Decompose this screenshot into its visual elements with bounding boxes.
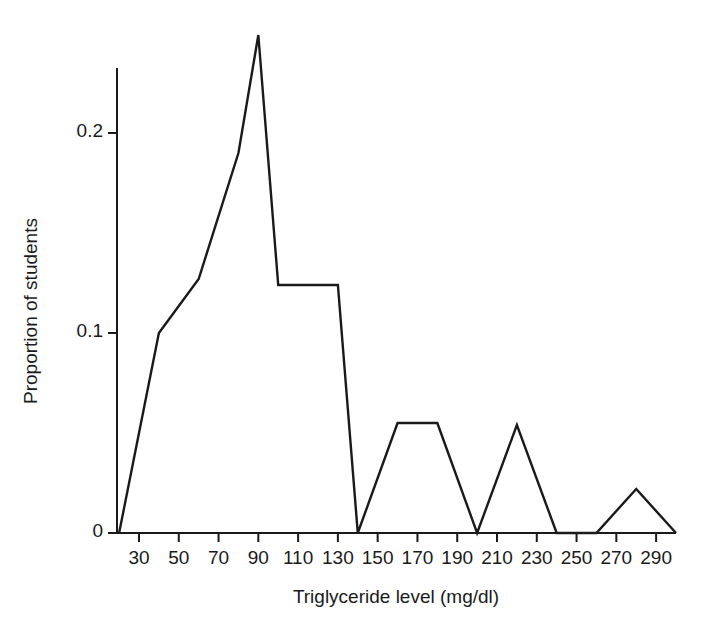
frequency-polygon-plot: [0, 0, 716, 637]
x-axis-title: Triglyceride level (mg/dl): [118, 586, 674, 608]
frequency-polygon-line: [119, 35, 676, 533]
x-tick-label: 290: [626, 547, 686, 569]
y-axis-title: Proportion of students: [20, 141, 42, 481]
y-tick-label: 0.2: [7, 120, 103, 142]
figure-container: Proportion of students Triglyceride leve…: [0, 0, 716, 637]
y-axis-ticks: [108, 133, 117, 533]
y-tick-label: 0.1: [7, 320, 103, 342]
x-axis-ticks: [139, 533, 656, 542]
y-tick-label: 0: [7, 520, 103, 542]
